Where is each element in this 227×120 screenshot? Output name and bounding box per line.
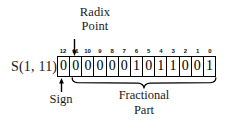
bit-cell: 1 [167,57,179,76]
radix-point-caption-line2: Point [56,20,134,34]
bit-cell: 0 [119,57,131,76]
bit-index: 3 [167,47,179,56]
bit-cell: 0 [70,57,82,76]
bit-index: 7 [118,47,130,56]
arrow-up-icon [59,78,64,92]
bit-cell: 0 [107,57,119,76]
bit-index: 2 [179,47,191,56]
bit-cell: 0 [180,57,192,76]
sign-caption: Sign [33,92,89,106]
radix-point-caption-line1: Radix [56,6,134,20]
bit-cell: 1 [155,57,167,76]
fractional-part-caption-line1: Fractional [103,88,185,103]
bit-cell: 0 [94,57,106,76]
fractional-part-caption: Fractional Part [103,88,185,117]
bit-index: 9 [94,47,106,56]
radix-point-caption: Radix Point [56,6,134,33]
fixed-point-format-diagram: Radix Point 12 11 10 9 8 7 6 5 4 3 2 1 0… [0,0,227,120]
bit-cell: 0 [58,57,70,76]
bit-index: 5 [143,47,155,56]
format-label: S(1, 11) [11,57,57,77]
bit-cell: 0 [82,57,94,76]
bit-field-row: 0 0 0 0 0 0 1 0 1 1 0 0 1 [57,56,216,77]
bit-cell: 1 [204,57,215,76]
bit-cell: 0 [192,57,204,76]
bit-index: 1 [192,47,204,56]
bit-index: 0 [204,47,216,56]
bit-index: 11 [69,47,81,56]
bit-index: 10 [81,47,93,56]
bit-index-row: 12 11 10 9 8 7 6 5 4 3 2 1 0 [57,47,216,56]
bit-cell: 0 [143,57,155,76]
bit-cell: 1 [131,57,143,76]
bit-index: 4 [155,47,167,56]
bit-index: 12 [57,47,69,56]
bit-index: 6 [130,47,142,56]
bit-index: 8 [106,47,118,56]
fractional-part-caption-line2: Part [103,103,185,118]
